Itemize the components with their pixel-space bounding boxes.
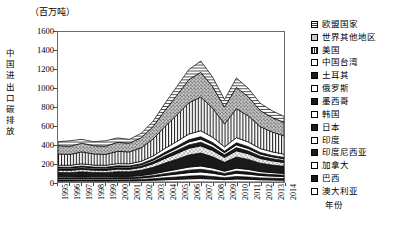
x-axis-tick-label: 2005	[181, 184, 190, 200]
y-axis-title: 中国进出口碳排放	[3, 48, 17, 138]
x-axis-tick-label: 1998	[97, 184, 106, 200]
x-axis-tick-label: 2009	[229, 184, 238, 200]
x-axis-tick-label: 1997	[85, 184, 94, 200]
plot-area	[57, 31, 285, 183]
legend-item-label: 欧盟国家	[322, 20, 358, 29]
y-axis-title-char: 排	[3, 115, 17, 126]
x-axis-title: 年份	[325, 198, 343, 210]
y-axis-title-char: 中	[3, 48, 17, 59]
x-axis-tick-label: 1996	[73, 184, 82, 200]
legend-item-label: 日本	[322, 123, 340, 132]
x-axis-tick-label: 2014	[289, 184, 298, 200]
legend-swatch-icon	[311, 21, 318, 28]
legend-item-label: 印度	[322, 136, 340, 145]
legend-swatch-icon	[311, 59, 318, 66]
x-axis-tick-label: 2007	[205, 184, 214, 200]
legend-item[interactable]: 俄罗斯	[311, 82, 397, 95]
legend-item[interactable]: 世界其他地区	[311, 31, 397, 44]
x-axis-tick-labels: 1995199619971998199920002001200220032004…	[57, 184, 285, 226]
legend-swatch-icon	[311, 162, 318, 169]
legend-swatch-icon	[311, 124, 318, 131]
legend-item-label: 巴西	[322, 174, 340, 183]
x-axis-tick-label: 2002	[145, 184, 154, 200]
legend-item[interactable]: 中国台湾	[311, 57, 397, 70]
legend-swatch-icon	[311, 85, 318, 92]
legend-item[interactable]: 印度尼西亚	[311, 146, 397, 159]
x-axis-tick-label: 2000	[121, 184, 130, 200]
legend-item[interactable]: 日本	[311, 121, 397, 134]
legend-item-label: 土耳其	[322, 71, 349, 80]
legend-swatch-icon	[311, 47, 318, 54]
legend-swatch-icon	[311, 111, 318, 118]
legend-item-label: 世界其他地区	[322, 33, 376, 42]
x-axis-tick-label: 1995	[61, 184, 70, 200]
legend-item-label: 韩国	[322, 110, 340, 119]
x-axis-tick-label: 2003	[157, 184, 166, 200]
legend-item[interactable]: 澳大利亚	[311, 185, 397, 198]
legend-swatch-icon	[311, 149, 318, 156]
x-axis-tick-label: 2008	[217, 184, 226, 200]
legend-swatch-icon	[311, 137, 318, 144]
legend-swatch-icon	[311, 34, 318, 41]
y-axis-title-char: 口	[3, 93, 17, 104]
y-axis-title-char: 进	[3, 70, 17, 81]
chart-legend: 欧盟国家世界其他地区美国中国台湾土耳其俄罗斯墨西哥韩国日本印度印度尼西亚加拿大巴…	[311, 18, 397, 198]
x-axis-tick-label: 2010	[241, 184, 250, 200]
legend-swatch-icon	[311, 72, 318, 79]
legend-item[interactable]: 印度	[311, 134, 397, 147]
legend-item-label: 墨西哥	[322, 97, 349, 106]
legend-item[interactable]: 美国	[311, 44, 397, 57]
x-axis-tick-label: 2001	[133, 184, 142, 200]
y-axis-unit-label: （百万吨）	[30, 5, 75, 18]
x-axis-tick-label: 1999	[109, 184, 118, 200]
legend-item-label: 中国台湾	[322, 58, 358, 67]
legend-item[interactable]: 墨西哥	[311, 95, 397, 108]
legend-item[interactable]: 巴西	[311, 172, 397, 185]
legend-swatch-icon	[311, 188, 318, 195]
x-axis-tick-label: 2012	[265, 184, 274, 200]
legend-item-label: 美国	[322, 46, 340, 55]
legend-item[interactable]: 韩国	[311, 108, 397, 121]
legend-item-label: 澳大利亚	[322, 187, 358, 196]
y-axis-title-char: 碳	[3, 104, 17, 115]
x-axis-tick-label: 2006	[193, 184, 202, 200]
stacked-area-series	[58, 32, 284, 182]
legend-item[interactable]: 欧盟国家	[311, 18, 397, 31]
legend-item-label: 俄罗斯	[322, 84, 349, 93]
x-axis-tick-label: 2004	[169, 184, 178, 200]
y-axis-title-char: 放	[3, 126, 17, 137]
legend-item[interactable]: 土耳其	[311, 69, 397, 82]
legend-item[interactable]: 加拿大	[311, 159, 397, 172]
y-axis-title-char: 出	[3, 82, 17, 93]
legend-item-label: 印度尼西亚	[322, 148, 367, 157]
y-axis-title-char: 国	[3, 59, 17, 70]
legend-swatch-icon	[311, 175, 318, 182]
x-axis-tick-label: 2013	[277, 184, 286, 200]
carbon-emission-area-chart: （百万吨） 中国进出口碳排放 0200400600800100012001400…	[0, 0, 398, 228]
x-axis-tick-label: 2011	[253, 184, 262, 200]
legend-swatch-icon	[311, 98, 318, 105]
y-axis-tick-labels: 02004006008001000120014001600	[23, 31, 54, 183]
legend-item-label: 加拿大	[322, 161, 349, 170]
